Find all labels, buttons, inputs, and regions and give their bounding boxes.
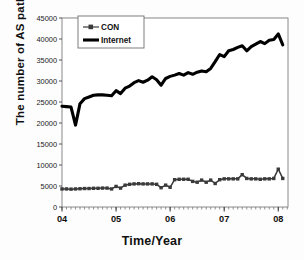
- series-marker-con: [195, 181, 198, 184]
- series-marker-con: [65, 187, 68, 190]
- series-marker-con: [150, 182, 153, 185]
- series-marker-con: [191, 180, 194, 183]
- series-marker-con: [205, 181, 208, 184]
- series-marker-con: [69, 187, 72, 190]
- series-marker-con: [123, 183, 126, 186]
- series-marker-con: [227, 177, 230, 180]
- series-marker-con: [223, 177, 226, 180]
- series-marker-con: [173, 178, 176, 181]
- x-axis-ticks: 0405060708: [57, 207, 287, 224]
- series-marker-con: [110, 187, 113, 190]
- series-marker-con: [281, 177, 284, 180]
- series-marker-con: [114, 185, 117, 188]
- x-tick-label: 08: [273, 214, 283, 224]
- series-marker-con: [137, 182, 140, 185]
- y-tick-label: 20000: [36, 119, 57, 128]
- series-marker-con: [250, 177, 253, 180]
- series-marker-con: [87, 187, 90, 190]
- series-marker-con: [96, 187, 99, 190]
- y-tick-label: 0: [53, 203, 57, 212]
- series-marker-con: [182, 178, 185, 181]
- x-tick-label: 06: [165, 214, 175, 224]
- y-tick-label: 35000: [36, 56, 57, 65]
- series-marker-con: [101, 186, 104, 189]
- series-marker-con: [268, 177, 271, 180]
- series-marker-con: [200, 178, 203, 181]
- series-marker-con: [168, 186, 171, 189]
- series-marker-con: [245, 177, 248, 180]
- series-marker-con: [259, 178, 262, 181]
- series-marker-con: [177, 178, 180, 181]
- legend-label-internet: Internet: [101, 36, 131, 45]
- chart-figure: 0500010000150002000025000300003500040000…: [0, 0, 304, 260]
- series-marker-con: [119, 186, 122, 189]
- series-marker-con: [155, 183, 158, 186]
- y-axis-ticks: 0500010000150002000025000300003500040000…: [36, 14, 62, 212]
- y-tick-label: 40000: [36, 35, 57, 44]
- legend-marker-con: [89, 25, 94, 30]
- chart-legend: CON Internet: [78, 16, 144, 48]
- series-marker-con: [83, 187, 86, 190]
- series-marker-con: [232, 177, 235, 180]
- series-marker-con: [272, 177, 275, 180]
- series-marker-con: [209, 178, 212, 181]
- series-marker-con: [146, 182, 149, 185]
- x-tick-label: 07: [219, 214, 229, 224]
- series-marker-con: [263, 177, 266, 180]
- x-tick-label: 05: [111, 214, 121, 224]
- series-marker-con: [132, 182, 135, 185]
- x-axis-title: Time/Year: [0, 234, 304, 248]
- y-axis-title: The number of AS path: [14, 0, 26, 140]
- series-marker-con: [277, 168, 280, 171]
- series-marker-con: [241, 173, 244, 176]
- y-tick-label: 30000: [36, 77, 57, 86]
- series-marker-con: [159, 186, 162, 189]
- series-marker-con: [92, 187, 95, 190]
- series-marker-con: [254, 177, 257, 180]
- series-marker-con: [74, 187, 77, 190]
- y-tick-label: 15000: [36, 140, 57, 149]
- y-tick-label: 45000: [36, 14, 57, 23]
- y-tick-label: 25000: [36, 98, 57, 107]
- series-marker-con: [218, 178, 221, 181]
- series-marker-con: [186, 178, 189, 181]
- line-chart: 0500010000150002000025000300003500040000…: [0, 0, 304, 260]
- y-tick-label: 5000: [41, 182, 57, 191]
- x-tick-label: 04: [57, 214, 68, 224]
- series-marker-con: [128, 183, 131, 186]
- legend-label-con: CON: [101, 23, 119, 32]
- series-marker-con: [141, 182, 144, 185]
- series-marker-con: [213, 182, 216, 185]
- y-axis-title-wrapper: The number of AS path: [14, 0, 30, 140]
- series-marker-con: [78, 187, 81, 190]
- series-marker-con: [164, 183, 167, 186]
- series-marker-con: [60, 187, 63, 190]
- y-tick-label: 10000: [36, 161, 57, 170]
- series-marker-con: [236, 177, 239, 180]
- series-marker-con: [105, 186, 108, 189]
